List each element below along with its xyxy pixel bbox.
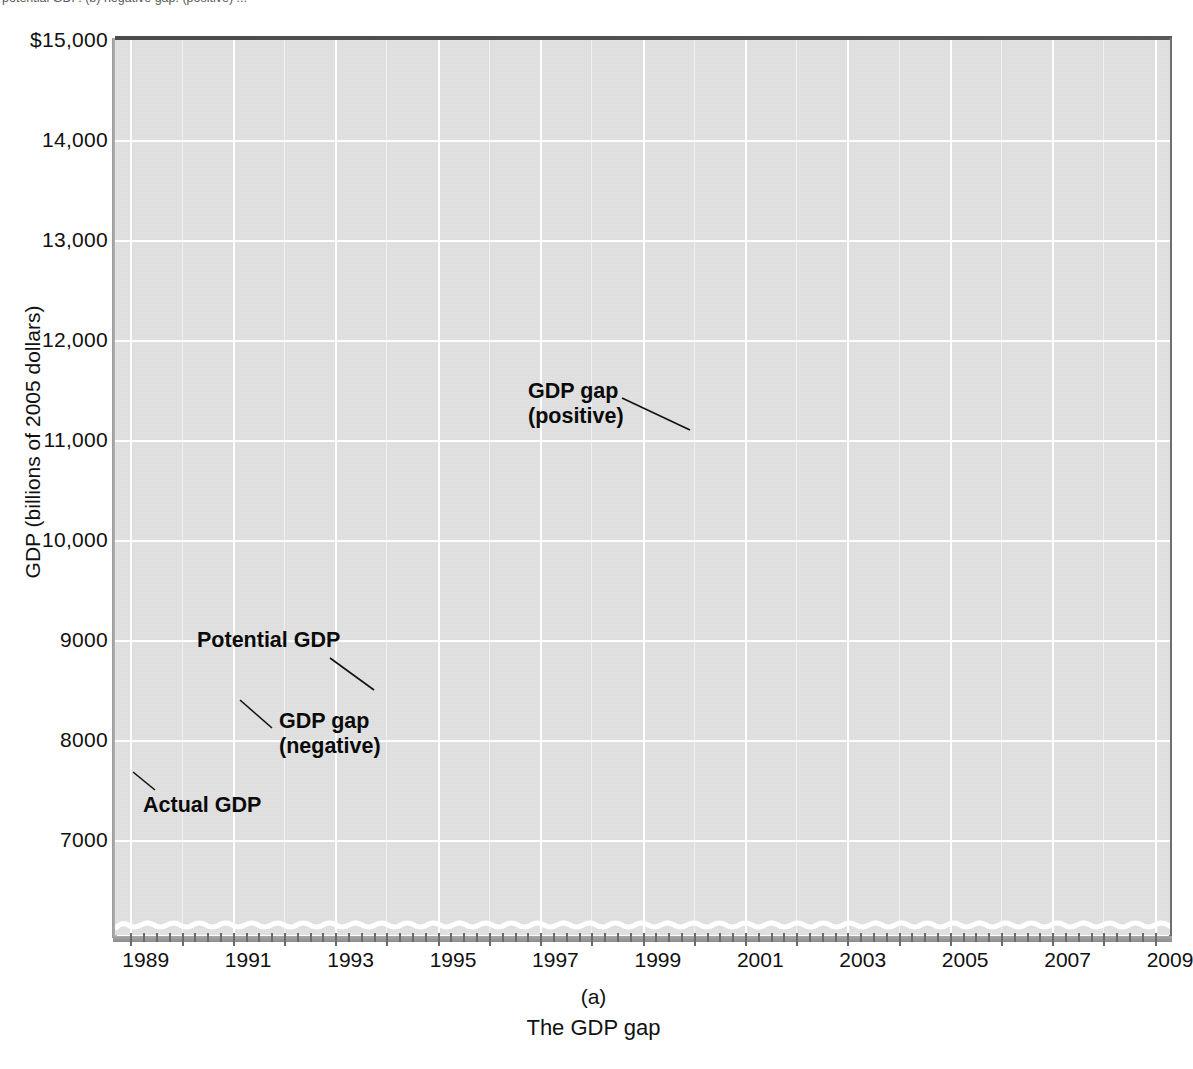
- x-minor-tick: [1091, 933, 1093, 942]
- x-minor-tick: [1142, 933, 1144, 942]
- x-tick-1999: 1999: [635, 948, 682, 972]
- gridline-year-2002: [796, 40, 797, 935]
- axis-break-wave: [115, 916, 1170, 934]
- gridline-value-7000: [115, 840, 1170, 842]
- x-minor-tick: [655, 933, 657, 942]
- x-minor-tick: [988, 933, 990, 942]
- x-minor-tick: [617, 933, 619, 942]
- x-minor-tick: [694, 933, 696, 946]
- y-tick-7000: 7000: [12, 828, 108, 852]
- x-minor-tick: [771, 933, 773, 942]
- x-tick-2009: 2009: [1147, 948, 1193, 972]
- x-minor-tick: [271, 933, 273, 942]
- x-minor-tick: [194, 933, 196, 942]
- x-minor-tick: [1014, 933, 1016, 942]
- x-minor-tick: [1039, 933, 1041, 942]
- x-minor-tick: [591, 933, 593, 946]
- x-minor-tick: [156, 933, 158, 942]
- x-minor-tick: [1027, 933, 1029, 942]
- annotation-gap-positive-line1: GDP gap: [528, 379, 618, 404]
- x-minor-tick: [566, 933, 568, 942]
- annotation-gap-positive-line2: (positive): [528, 404, 624, 429]
- x-minor-tick: [1129, 933, 1131, 942]
- x-minor-tick: [1065, 933, 1067, 942]
- gridline-year-1995: [438, 40, 440, 935]
- x-tick-1995: 1995: [430, 948, 477, 972]
- x-tick-1991: 1991: [225, 948, 272, 972]
- x-minor-tick: [130, 933, 132, 946]
- gridline-value-11000: [115, 440, 1170, 442]
- x-minor-tick: [911, 933, 913, 942]
- gridline-year-1994: [386, 40, 387, 935]
- x-minor-tick: [540, 933, 542, 946]
- x-minor-tick: [630, 933, 632, 942]
- x-minor-tick: [975, 933, 977, 942]
- y-axis-title: GDP (billions of 2005 dollars): [21, 212, 45, 672]
- x-minor-tick: [143, 933, 145, 942]
- annotation-gap-negative-line1: GDP gap: [279, 709, 369, 734]
- gridline-value-14000: [115, 140, 1170, 142]
- x-tick-2005: 2005: [942, 948, 989, 972]
- x-minor-tick: [579, 933, 581, 942]
- x-minor-tick: [1116, 933, 1118, 942]
- x-minor-tick: [847, 933, 849, 946]
- x-minor-tick: [745, 933, 747, 946]
- x-minor-tick: [1078, 933, 1080, 942]
- x-minor-tick: [527, 933, 529, 942]
- x-minor-tick: [1155, 933, 1157, 946]
- plot-area: [115, 40, 1170, 935]
- x-minor-tick: [668, 933, 670, 942]
- x-minor-tick: [489, 933, 491, 946]
- gridline-year-1996: [489, 40, 490, 935]
- x-minor-tick: [348, 933, 350, 942]
- x-minor-tick: [963, 933, 965, 942]
- x-minor-tick: [886, 933, 888, 942]
- panel-title: The GDP gap: [0, 1015, 1187, 1041]
- x-minor-tick: [297, 933, 299, 942]
- annotation-potential-gdp: Potential GDP: [197, 628, 340, 653]
- x-minor-tick: [361, 933, 363, 942]
- x-minor-tick: [233, 933, 235, 946]
- gridline-year-2009: [1155, 40, 1157, 935]
- x-minor-tick: [207, 933, 209, 942]
- x-minor-tick: [809, 933, 811, 942]
- x-minor-tick: [835, 933, 837, 942]
- x-minor-tick: [873, 933, 875, 942]
- x-minor-tick: [604, 933, 606, 942]
- x-minor-tick: [169, 933, 171, 942]
- annotation-actual-gdp: Actual GDP: [143, 793, 261, 818]
- gridline-year-2004: [899, 40, 900, 935]
- x-minor-tick: [374, 933, 376, 942]
- x-minor-tick: [322, 933, 324, 942]
- x-minor-tick: [783, 933, 785, 942]
- gridline-value-10000: [115, 540, 1170, 542]
- x-minor-tick: [950, 933, 952, 946]
- x-minor-tick: [399, 933, 401, 942]
- x-minor-tick: [463, 933, 465, 942]
- gridline-value-12000: [115, 340, 1170, 342]
- x-minor-tick: [822, 933, 824, 942]
- gridline-year-2001: [745, 40, 747, 935]
- gridline-year-2006: [1001, 40, 1002, 935]
- gridline-year-1998: [591, 40, 592, 935]
- x-minor-tick: [502, 933, 504, 942]
- x-minor-tick: [425, 933, 427, 942]
- panel-letter: (a): [0, 985, 1187, 1009]
- x-minor-tick: [899, 933, 901, 946]
- annotation-gap-negative-line2: (negative): [279, 734, 381, 759]
- gridline-year-1997: [540, 40, 542, 935]
- y-tick-8000: 8000: [12, 728, 108, 752]
- x-minor-tick: [1052, 933, 1054, 946]
- x-minor-tick: [310, 933, 312, 942]
- x-tick-2001: 2001: [737, 948, 784, 972]
- x-minor-tick: [258, 933, 260, 942]
- x-minor-tick: [732, 933, 734, 942]
- gridline-year-1993: [335, 40, 337, 935]
- x-minor-tick: [220, 933, 222, 942]
- x-minor-tick: [515, 933, 517, 942]
- gridline-year-2008: [1103, 40, 1104, 935]
- gridline-year-2005: [950, 40, 952, 935]
- y-tick-14000: 14,000: [12, 128, 108, 152]
- x-minor-tick: [860, 933, 862, 942]
